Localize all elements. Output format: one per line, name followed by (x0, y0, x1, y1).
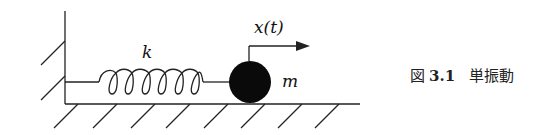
wall (41, 11, 65, 104)
caption-title: 単振動 (469, 67, 514, 85)
spring-constant-label: k (142, 42, 152, 62)
figure-caption: 図3.1単振動 (410, 64, 514, 85)
spring (65, 69, 232, 94)
arrowhead-icon (296, 41, 310, 51)
caption-prefix: 図 (410, 67, 425, 85)
mass-ball (229, 61, 271, 103)
mass-label: m (282, 71, 298, 91)
floor (54, 104, 360, 128)
displacement-arrow-icon (249, 46, 298, 61)
displacement-label: x(t) (254, 17, 284, 37)
caption-number: 3.1 (429, 67, 455, 85)
